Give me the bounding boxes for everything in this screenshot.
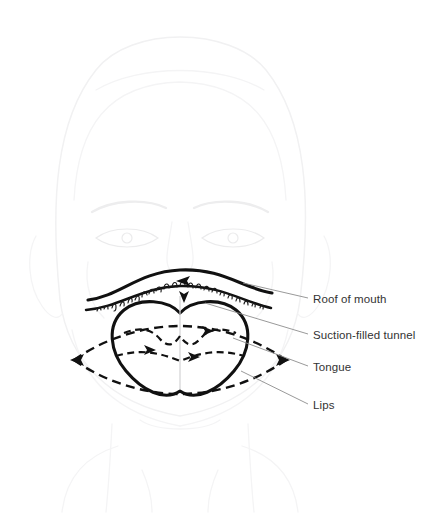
diagram-canvas: Roof of mouthSuction-filled tunnelTongue… (0, 0, 434, 515)
label-tongue: Tongue (313, 361, 351, 373)
diagram-background (0, 0, 434, 515)
label-lips: Lips (313, 399, 335, 411)
label-roof-of-mouth: Roof of mouth (313, 293, 387, 305)
label-suction-filled-tunnel: Suction-filled tunnel (313, 329, 415, 341)
mouth-anatomy-diagram: Roof of mouthSuction-filled tunnelTongue… (0, 0, 434, 515)
